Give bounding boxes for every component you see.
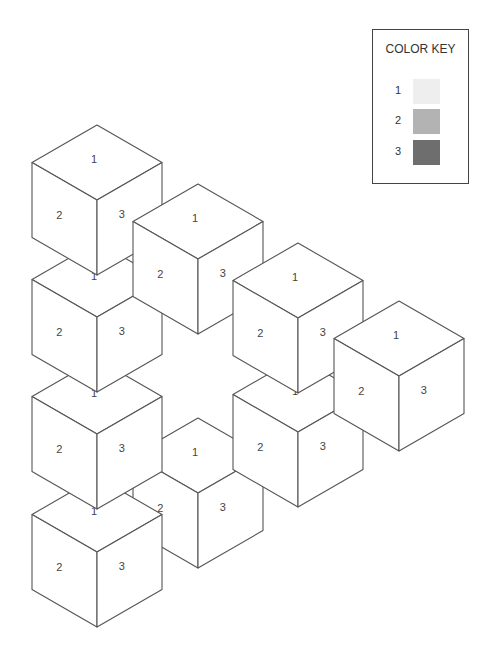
face-number-label: 1 [393, 329, 399, 341]
color-key-number: 2 [395, 114, 401, 126]
face-number-label: 3 [119, 325, 125, 337]
face-number-label: 3 [220, 267, 226, 279]
face-number-label: 2 [257, 441, 263, 453]
face-number-label: 2 [56, 209, 62, 221]
color-swatch-2 [413, 109, 440, 134]
face-number-label: 1 [292, 271, 298, 283]
face-number-label: 3 [119, 442, 125, 454]
face-number-label: 3 [320, 326, 326, 338]
face-number-label: 1 [91, 153, 97, 165]
face-number-label: 2 [358, 385, 364, 397]
color-swatch-1 [413, 79, 440, 104]
face-number-label: 3 [220, 501, 226, 513]
color-swatch-3 [413, 140, 440, 165]
face-number-label: 3 [320, 440, 326, 452]
face-number-label: 3 [119, 560, 125, 572]
face-number-label: 2 [257, 327, 263, 339]
color-key-title: COLOR KEY [373, 42, 468, 56]
color-key-entry-3: 3 [373, 140, 468, 164]
color-key: COLOR KEY 1 2 3 [372, 29, 469, 184]
color-key-number: 3 [395, 145, 401, 157]
face-number-label: 1 [192, 446, 198, 458]
face-number-label: 2 [56, 326, 62, 338]
face-number-label: 3 [119, 208, 125, 220]
color-key-entry-2: 2 [373, 109, 468, 133]
face-number-label: 1 [192, 212, 198, 224]
color-key-number: 1 [395, 84, 401, 96]
face-number-label: 2 [56, 443, 62, 455]
face-number-label: 3 [421, 384, 427, 396]
face-number-label: 2 [157, 268, 163, 280]
color-key-entry-1: 1 [373, 79, 468, 103]
face-number-label: 2 [56, 561, 62, 573]
